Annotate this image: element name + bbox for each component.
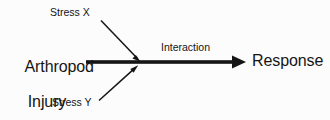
edge-stress-x-arrow xyxy=(101,21,141,62)
edge-stress-y-arrow xyxy=(99,65,138,100)
node-stress-y: Stress Y xyxy=(52,97,92,108)
node-stress-x: Stress X xyxy=(50,7,90,18)
edge-main-arrow xyxy=(86,56,246,69)
diagram-canvas: Arthropod Injury Response Interaction St… xyxy=(0,0,330,120)
node-response: Response xyxy=(252,52,323,69)
node-arthropod-injury-line1: Arthropod xyxy=(25,58,94,75)
edge-main-label: Interaction xyxy=(161,42,210,53)
